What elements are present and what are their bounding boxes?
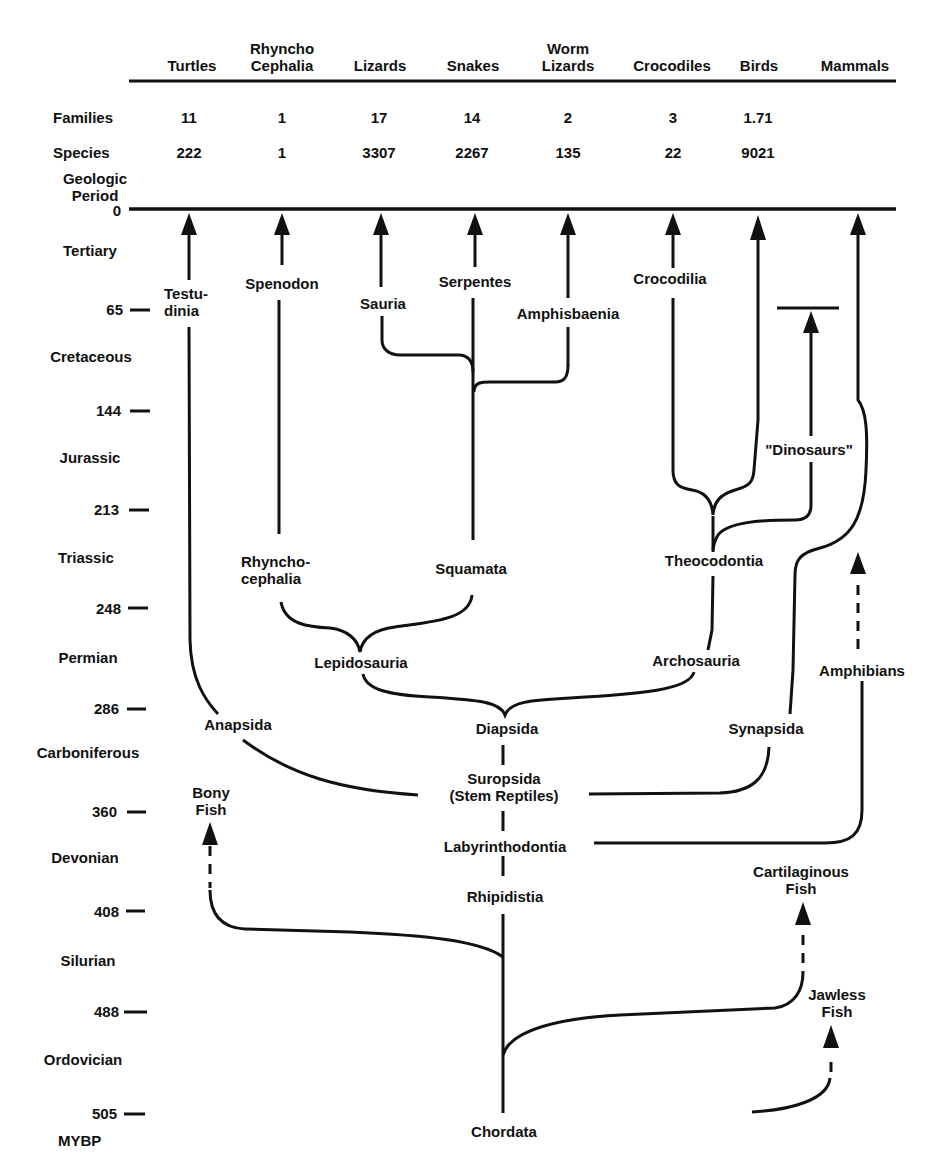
species-turtles: 222 xyxy=(176,144,201,161)
taxon-anapsida: Anapsida xyxy=(204,716,272,733)
arrow-up-icon xyxy=(274,213,290,235)
axis-ticks xyxy=(124,310,150,1114)
axis-title: Geologic Period xyxy=(63,170,127,204)
amphibians-lineage xyxy=(594,552,866,843)
dinosaurs-lineage xyxy=(713,308,839,552)
species-label: Species xyxy=(53,144,110,161)
families-worm-lizards: 2 xyxy=(564,109,572,126)
cartilaginous-fish-lineage xyxy=(503,902,811,1055)
phylogeny-lines xyxy=(0,0,938,1174)
tick-label-65: 65 xyxy=(106,301,123,318)
species-snakes: 2267 xyxy=(455,144,488,161)
species-rhynchocephalia: 1 xyxy=(278,144,286,161)
taxon-archosauria: Archosauria xyxy=(652,652,740,669)
tick-label-144: 144 xyxy=(96,402,121,419)
column-mammals: Mammals xyxy=(821,57,889,74)
tick-label-408: 408 xyxy=(94,903,119,920)
period-jurassic: Jurassic xyxy=(60,449,121,466)
arrow-up-icon xyxy=(750,215,766,240)
column-crocodiles: Crocodiles xyxy=(633,57,711,74)
axis-unit-label: MYBP xyxy=(58,1132,101,1149)
families-snakes: 14 xyxy=(464,109,481,126)
column-rhynchocephalia: Rhyncho Cephalia xyxy=(250,40,314,74)
species-crocodiles: 22 xyxy=(665,144,682,161)
taxon-jawless-fish: Jawless Fish xyxy=(808,986,866,1020)
families-lizards: 17 xyxy=(371,109,388,126)
taxon-lepidosauria: Lepidosauria xyxy=(314,654,407,671)
period-tertiary: Tertiary xyxy=(63,242,117,259)
tick-label-213: 213 xyxy=(94,501,119,518)
arrow-up-icon xyxy=(795,902,811,925)
arrow-up-icon xyxy=(560,213,576,235)
taxon-bony-fish: Bony Fish xyxy=(192,784,230,818)
period-devonian: Devonian xyxy=(51,849,119,866)
column-snakes: Snakes xyxy=(447,57,500,74)
taxon-sauria: Sauria xyxy=(360,295,406,312)
worm-lizards-lineage xyxy=(560,213,576,366)
tick-label-505: 505 xyxy=(92,1105,117,1122)
tick-label-286: 286 xyxy=(94,700,119,717)
column-turtles: Turtles xyxy=(168,57,217,74)
taxon-dinosaurs: "Dinosaurs" xyxy=(765,441,853,458)
taxon-spenodon: Spenodon xyxy=(245,275,318,292)
taxon-squamata: Squamata xyxy=(435,560,507,577)
taxon-cartilaginous-fish: Cartilaginous Fish xyxy=(753,863,849,897)
snakes-lineage xyxy=(467,213,568,540)
tick-label-488: 488 xyxy=(94,1003,119,1020)
arrow-up-icon xyxy=(850,552,866,574)
period-ordovician: Ordovician xyxy=(44,1051,122,1068)
taxon-amphibians: Amphibians xyxy=(819,662,905,679)
arrow-up-icon xyxy=(181,213,197,235)
arrow-up-icon xyxy=(803,311,819,333)
crocodiles-lineage xyxy=(665,213,758,515)
taxon-labyrinthodontia: Labyrinthodontia xyxy=(444,838,567,855)
arrow-up-icon xyxy=(850,213,866,235)
arrow-up-icon xyxy=(467,213,483,235)
period-silurian: Silurian xyxy=(60,952,115,969)
taxon-crocodilia: Crocodilia xyxy=(633,270,706,287)
families-rhynchocephalia: 1 xyxy=(278,109,286,126)
taxon-suropsida: Suropsida (Stem Reptiles) xyxy=(449,770,558,804)
diapsida-bracket xyxy=(363,672,694,715)
period-permian: Permian xyxy=(58,649,117,666)
column-lizards: Lizards xyxy=(354,57,407,74)
arrow-up-icon xyxy=(665,213,681,235)
species-birds: 9021 xyxy=(741,144,774,161)
theocodontia-archosauria-branch xyxy=(708,576,713,650)
families-birds: 1.71 xyxy=(743,109,772,126)
period-carboniferous: Carboniferous xyxy=(37,744,140,761)
taxon-amphisbaenia: Amphisbaenia xyxy=(517,305,620,322)
arrow-up-icon xyxy=(202,822,218,845)
column-birds: Birds xyxy=(740,57,778,74)
period-triassic: Triassic xyxy=(58,549,114,566)
families-turtles: 11 xyxy=(181,109,197,126)
period-cretaceous: Cretaceous xyxy=(50,348,132,365)
synapsida-branch xyxy=(589,747,769,794)
arrow-up-icon xyxy=(373,213,389,235)
column-worm-lizards: Worm Lizards xyxy=(542,40,595,74)
arrow-up-icon xyxy=(823,1025,839,1048)
mammals-lineage xyxy=(790,213,867,714)
taxon-rhipidistia: Rhipidistia xyxy=(467,888,544,905)
taxon-theocodontia: Theocodontia xyxy=(665,552,763,569)
taxon-synapsida: Synapsida xyxy=(728,720,803,737)
tick-label-248: 248 xyxy=(96,600,121,617)
species-worm-lizards: 135 xyxy=(555,144,580,161)
taxon-diapsida: Diapsida xyxy=(476,720,539,737)
species-lizards: 3307 xyxy=(362,144,395,161)
tick-label-360: 360 xyxy=(92,803,117,820)
jawless-fish-lineage xyxy=(752,1025,839,1112)
lizards-lineage xyxy=(373,213,473,372)
families-crocodiles: 3 xyxy=(669,109,677,126)
birds-lineage xyxy=(750,215,766,240)
families-label: Families xyxy=(53,109,113,126)
tick-label-0: 0 xyxy=(113,202,121,219)
taxon-chordata: Chordata xyxy=(471,1123,537,1140)
taxon-testudinia: Testu- dinia xyxy=(164,285,208,319)
taxon-serpentes: Serpentes xyxy=(439,273,512,290)
taxon-rhynchocephalia: Rhyncho- cephalia xyxy=(241,553,310,587)
